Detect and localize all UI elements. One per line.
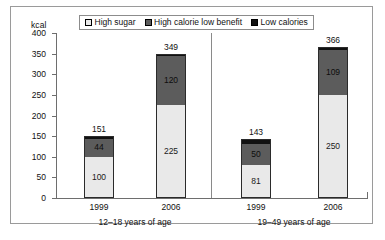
y-tick-mark-350: 350 [52,54,56,55]
legend-item-high-sugar[interactable]: High sugar [85,18,136,27]
legend-label-high-sugar: High sugar [95,18,136,27]
y-tick-mark-150: 150 [52,136,56,137]
bar-segment-value-high-calorie-low-benefit: 109 [326,68,340,77]
legend-swatch-high-sugar-icon [85,19,92,26]
bar-1999-19-49[interactable]: 143 12 50 81 [241,139,271,198]
legend-swatch-low-calories-icon [251,19,258,26]
y-tick-label-250: 250 [32,90,46,100]
legend-label-high-calorie-low-benefit: High calorie low benefit [154,18,242,27]
y-tick-mark-100: 100 [52,157,56,158]
bar-segment-high-sugar[interactable]: 81 [241,165,271,198]
bar-segment-high-calorie-low-benefit[interactable]: 50 [241,144,271,165]
y-tick-mark-300: 300 [52,74,56,75]
y-tick-mark-0: 0 [52,198,56,199]
y-axis-line [56,33,57,198]
chart-legend: High sugar High calorie low benefit Low … [79,15,314,30]
y-tick-label-400: 400 [32,28,46,38]
bar-segment-value-high-sugar: 100 [92,173,106,182]
x-axis-end-tick [367,192,368,199]
bar-segment-high-calorie-low-benefit[interactable]: 120 [156,56,186,106]
group-divider [211,33,212,198]
bar-total-label: 349 [164,42,178,52]
x-tick-label-2006-12-18: 2006 [162,202,181,212]
bar-segment-high-calorie-low-benefit[interactable]: 109 [318,50,348,95]
y-tick-mark-50: 50 [52,177,56,178]
x-tick-label-1999-19-49: 1999 [247,202,266,212]
x-tick-label-1999-12-18: 1999 [90,202,109,212]
y-tick-label-350: 350 [32,49,46,59]
y-tick-mark-200: 200 [52,116,56,117]
bar-total-label: 151 [92,124,106,134]
y-tick-label-150: 150 [32,131,46,141]
group-label-19-49-years: 19–49 years of age [258,217,331,227]
bar-segment-high-sugar[interactable]: 100 [84,157,114,198]
plot-area: 400 350 300 250 200 150 100 50 0 151 7 4… [56,33,368,198]
y-tick-mark-250: 250 [52,95,56,96]
bar-segment-value-high-calorie-low-benefit: 120 [164,76,178,85]
legend-item-high-calorie-low-benefit[interactable]: High calorie low benefit [145,18,242,27]
legend-swatch-high-calorie-low-benefit-icon [145,19,152,26]
y-tick-label-100: 100 [32,152,46,162]
bar-1999-12-18[interactable]: 151 7 44 100 [84,136,114,198]
y-tick-label-200: 200 [32,111,46,121]
y-tick-label-300: 300 [32,69,46,79]
legend-item-low-calories[interactable]: Low calories [251,18,308,27]
chart-figure: kcal High sugar High calorie low benefit… [10,6,373,224]
bar-2006-12-18[interactable]: 349 4 120 225 [156,54,186,198]
bar-segment-value-high-sugar: 81 [251,177,260,186]
bar-total-label: 143 [249,127,263,137]
y-tick-label-50: 50 [37,172,46,182]
group-label-12-18-years: 12–18 years of age [99,217,172,227]
x-tick-label-2006-19-49: 2006 [324,202,343,212]
x-axis-line [56,198,368,199]
legend-label-low-calories: Low calories [261,18,308,27]
bar-2006-19-49[interactable]: 366 7 109 250 [318,47,348,198]
bar-segment-value-high-sugar: 250 [326,142,340,151]
bar-segment-value-high-calorie-low-benefit: 44 [94,143,103,152]
bar-segment-value-high-sugar: 225 [164,147,178,156]
bar-segment-high-calorie-low-benefit[interactable]: 44 [84,139,114,157]
bar-total-label: 366 [326,35,340,45]
y-tick-label-0: 0 [41,193,46,203]
bar-segment-high-sugar[interactable]: 225 [156,105,186,198]
y-tick-mark-400: 400 [52,33,56,34]
bar-segment-value-high-calorie-low-benefit: 50 [251,150,260,159]
bar-segment-high-sugar[interactable]: 250 [318,95,348,198]
